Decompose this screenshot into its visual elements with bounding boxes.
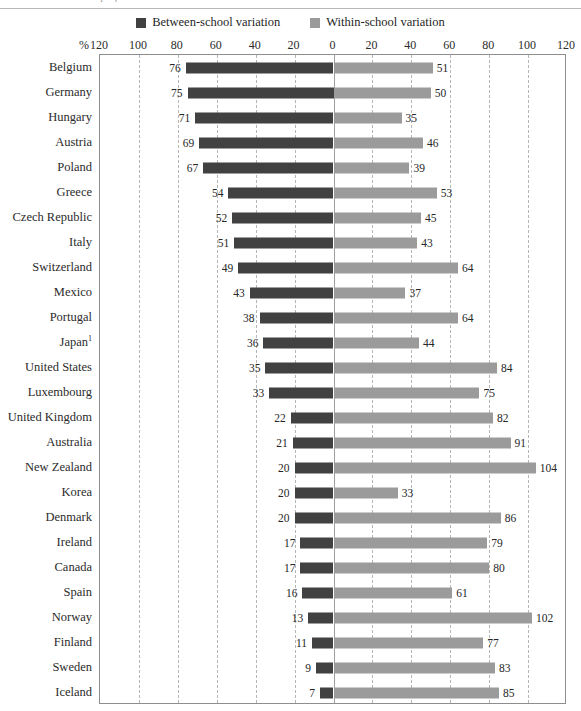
bar-between-school bbox=[293, 437, 334, 448]
value-label-within-school: 83 bbox=[499, 662, 511, 674]
axis-tick-label: 40 bbox=[249, 38, 261, 53]
value-label-between-school: 33 bbox=[253, 387, 265, 399]
bar-within-school bbox=[334, 337, 420, 348]
value-label-between-school: 71 bbox=[179, 112, 191, 124]
value-label-within-school: 77 bbox=[487, 637, 499, 649]
value-label-between-school: 51 bbox=[218, 237, 230, 249]
bar-row: 6946 bbox=[100, 130, 565, 155]
caption-divider-rule bbox=[0, 8, 581, 9]
bar-between-school bbox=[238, 262, 333, 273]
country-label: Norway bbox=[0, 609, 92, 624]
value-label-within-school: 85 bbox=[503, 687, 515, 699]
axis-unit-label: % bbox=[79, 38, 89, 53]
bar-row: 3864 bbox=[100, 305, 565, 330]
square-swatch bbox=[136, 18, 146, 28]
country-label: Austria bbox=[0, 134, 92, 149]
axis-tick-label: 80 bbox=[482, 38, 494, 53]
bar-within-school bbox=[334, 137, 424, 148]
value-label-within-school: 104 bbox=[540, 462, 557, 474]
value-label-within-school: 44 bbox=[423, 337, 435, 349]
country-label: Finland bbox=[0, 634, 92, 649]
bar-within-school bbox=[334, 462, 536, 473]
legend-item-1: Between-school variation bbox=[136, 15, 280, 30]
bar-between-school bbox=[186, 62, 334, 73]
value-label-between-school: 22 bbox=[274, 412, 286, 424]
bar-within-school bbox=[334, 187, 437, 198]
value-label-between-school: 76 bbox=[169, 62, 181, 74]
bar-between-school bbox=[320, 687, 334, 698]
bar-between-school bbox=[302, 587, 333, 598]
bar-between-school bbox=[228, 187, 333, 198]
value-label-between-school: 69 bbox=[183, 137, 195, 149]
value-label-within-school: 102 bbox=[536, 612, 553, 624]
value-label-within-school: 84 bbox=[501, 362, 513, 374]
value-label-within-school: 75 bbox=[483, 387, 495, 399]
axis-tick-label: 60 bbox=[210, 38, 222, 53]
value-label-between-school: 35 bbox=[249, 362, 261, 374]
country-label: Belgium bbox=[0, 59, 92, 74]
axis-tick-label: 120 bbox=[90, 38, 108, 53]
value-label-between-school: 11 bbox=[296, 637, 307, 649]
axis-tick-label: 20 bbox=[288, 38, 300, 53]
country-label: Hungary bbox=[0, 109, 92, 124]
category-axis-labels: BelgiumGermanyHungaryAustriaPolandGreece… bbox=[0, 54, 92, 704]
value-label-between-school: 38 bbox=[243, 312, 255, 324]
bar-between-school bbox=[234, 237, 333, 248]
country-label: Ireland bbox=[0, 534, 92, 549]
country-label: Iceland bbox=[0, 684, 92, 699]
country-label: New Zealand bbox=[0, 459, 92, 474]
value-label-within-school: 33 bbox=[402, 487, 414, 499]
value-label-between-school: 21 bbox=[276, 437, 288, 449]
country-label: Spain bbox=[0, 584, 92, 599]
country-label: Australia bbox=[0, 434, 92, 449]
bar-between-school bbox=[295, 512, 334, 523]
value-label-within-school: 80 bbox=[493, 562, 505, 574]
bar-row: 6739 bbox=[100, 155, 565, 180]
bar-between-school bbox=[260, 312, 334, 323]
axis-tick-label: 0 bbox=[330, 38, 336, 53]
bar-within-school bbox=[334, 112, 402, 123]
value-label-between-school: 17 bbox=[284, 562, 296, 574]
bar-within-school bbox=[334, 287, 406, 298]
bar-row: 1779 bbox=[100, 530, 565, 555]
bar-between-school bbox=[265, 362, 333, 373]
bar-row: 2086 bbox=[100, 505, 565, 530]
value-label-between-school: 49 bbox=[222, 262, 234, 274]
value-label-within-school: 39 bbox=[413, 162, 425, 174]
value-label-within-school: 43 bbox=[421, 237, 433, 249]
bar-row: 1780 bbox=[100, 555, 565, 580]
bar-row: 4337 bbox=[100, 280, 565, 305]
value-label-between-school: 52 bbox=[216, 212, 228, 224]
bar-row: 2191 bbox=[100, 430, 565, 455]
value-label-within-school: 79 bbox=[491, 537, 503, 549]
bar-row: 3644 bbox=[100, 330, 565, 355]
bar-between-school bbox=[300, 537, 333, 548]
bar-row: 3375 bbox=[100, 380, 565, 405]
bar-within-school bbox=[334, 312, 459, 323]
caption-text: variation in student performance between… bbox=[14, 0, 312, 2]
value-label-between-school: 36 bbox=[247, 337, 259, 349]
bar-row: 5453 bbox=[100, 180, 565, 205]
value-label-between-school: 9 bbox=[305, 662, 311, 674]
axis-tick-label: 80 bbox=[171, 38, 183, 53]
country-label: Poland bbox=[0, 159, 92, 174]
country-label: Mexico bbox=[0, 284, 92, 299]
value-label-between-school: 20 bbox=[278, 487, 290, 499]
bar-between-school bbox=[295, 462, 334, 473]
chart-plot-area: 7651755071356946673954535245514349644337… bbox=[99, 54, 566, 704]
value-label-between-school: 17 bbox=[284, 537, 296, 549]
country-label: Greece bbox=[0, 184, 92, 199]
legend-item-2: Within-school variation bbox=[310, 15, 445, 30]
value-label-between-school: 13 bbox=[292, 612, 304, 624]
bar-row: 7135 bbox=[100, 105, 565, 130]
bar-within-school bbox=[334, 262, 459, 273]
bar-within-school bbox=[334, 437, 511, 448]
bar-row: 7651 bbox=[100, 55, 565, 80]
country-label: United States bbox=[0, 359, 92, 374]
value-label-between-school: 20 bbox=[278, 462, 290, 474]
bar-between-school bbox=[291, 412, 334, 423]
axis-tick-label: 100 bbox=[518, 38, 536, 53]
country-label: Canada bbox=[0, 559, 92, 574]
axis-tick-label: 20 bbox=[365, 38, 377, 53]
bar-within-school bbox=[334, 512, 501, 523]
